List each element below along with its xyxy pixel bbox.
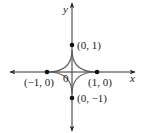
y-axis-label: y xyxy=(62,3,68,15)
astroid-diagram: y x 0 (0, 1) (0, −1) (−1, 0) (1, 0) xyxy=(0,0,142,133)
origin-label: 0 xyxy=(63,72,69,84)
x-axis-label: x xyxy=(129,72,135,84)
point-label-1-0: (1, 0) xyxy=(88,76,112,89)
point-label-0-1: (0, 1) xyxy=(77,39,101,52)
point-label-0-neg1: (0, −1) xyxy=(77,92,107,105)
point-neg1-0 xyxy=(45,70,50,75)
point-0-1 xyxy=(70,43,75,48)
point-label-neg1-0: (−1, 0) xyxy=(24,76,54,89)
point-1-0 xyxy=(95,70,100,75)
point-0-neg1 xyxy=(70,96,75,101)
